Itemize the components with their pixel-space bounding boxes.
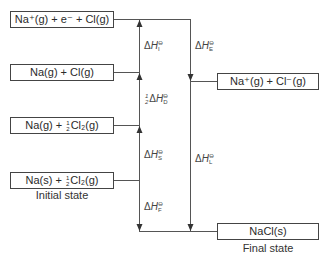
enthalpy-label-ionisation: ΔH⊖I — [144, 40, 163, 52]
final-state-caption: Final state — [217, 242, 319, 254]
enthalpy-label-sublimation: ΔH⊖S — [144, 149, 163, 161]
enthalpy-label-lattice: ΔH⊖L — [195, 153, 214, 165]
fraction-half: 12 — [66, 120, 69, 132]
arrowhead-down-formation — [137, 224, 143, 231]
level-label: Na⁺(g) + Cl⁻(g) — [230, 75, 306, 87]
arrowhead-up-ionisation — [137, 20, 143, 27]
level-label: NaCl(s) — [249, 225, 286, 237]
level-box-final-state: NaCl(s) — [217, 223, 319, 240]
level-box-initial-state: Na(s) + 12Cl₂(g) — [10, 172, 114, 189]
fraction-half: 12 — [145, 93, 148, 105]
level-label-pre: Na(g) + — [25, 119, 65, 131]
level-label: Na(g) + Cl(g) — [30, 66, 94, 78]
arrowhead-up-sublimation — [137, 126, 143, 133]
level-box-na-gas-half-cl2: Na(g) + 12Cl₂(g) — [10, 117, 114, 134]
level-box-ionised-gas-electron: Na⁺(g) + e⁻ + Cl(g) — [10, 11, 114, 28]
arrowhead-down-electron-affinity — [188, 74, 194, 81]
arrowhead-down-lattice — [188, 224, 194, 231]
level-label-post: Cl₂(g) — [71, 119, 99, 131]
level-label: Na⁺(g) + e⁻ + Cl(g) — [15, 13, 110, 25]
initial-state-caption: Initial state — [10, 189, 114, 201]
enthalpy-label-electron-affinity: ΔH⊖E — [195, 40, 214, 52]
level-box-atoms-gas: Na(g) + Cl(g) — [10, 64, 114, 81]
level-label-pre: Na(s) + — [26, 174, 65, 186]
fraction-half: 12 — [66, 175, 69, 187]
level-label-post: Cl₂(g) — [70, 174, 98, 186]
level-box-ions-gas: Na⁺(g) + Cl⁻(g) — [217, 73, 319, 90]
arrowhead-up-dissociation — [137, 73, 143, 80]
enthalpy-label-formation: ΔH⊖F — [144, 201, 163, 213]
enthalpy-label-dissociation: 12ΔH⊖D — [144, 93, 168, 105]
